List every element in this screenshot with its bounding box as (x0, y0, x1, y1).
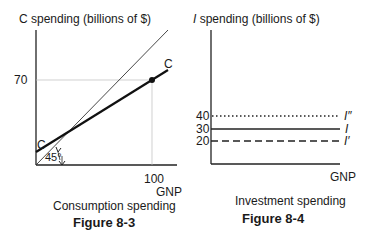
line-label-I-prime: I′ (344, 134, 350, 148)
45-degree-line (36, 30, 168, 165)
y-tick-20: 20 (196, 134, 209, 148)
curve-label-c-top: C (164, 57, 173, 71)
curve-label-c-bottom: C (37, 138, 46, 152)
consumption-line (36, 70, 168, 152)
y-tick-70: 70 (14, 73, 27, 87)
left-caption: Consumption spending (53, 199, 176, 213)
right-caption: Investment spending (235, 194, 346, 208)
right-y-axis-label: I spending (billions of $) (193, 12, 320, 26)
right-x-axis-label: GNP (330, 170, 356, 184)
left-y-axis-label: C spending (billions of $) (19, 12, 151, 26)
right-figure-title: Figure 8-4 (242, 211, 304, 226)
angle-label: 45° (45, 151, 62, 163)
y-tick-40: 40 (196, 109, 209, 123)
line-label-I-double-prime: I″ (344, 109, 352, 123)
left-figure-title: Figure 8-3 (73, 215, 135, 230)
left-x-axis-label: GNP (156, 185, 182, 199)
equilibrium-dot (149, 77, 155, 83)
x-tick-100: 100 (144, 172, 164, 186)
ylabel-text: spending (billions of $) (196, 12, 319, 26)
